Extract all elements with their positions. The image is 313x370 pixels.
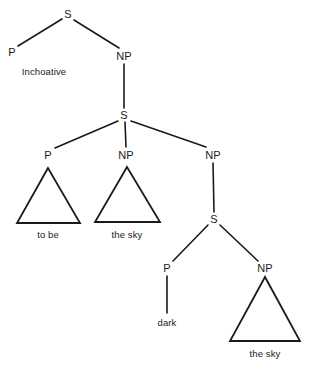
tree-branch-s-mid-to-np-mid [125,122,126,147]
tree-branch-s-low-to-p-low [173,225,208,261]
tree-lines-canvas [0,0,313,370]
tree-terminal-the-sky-low: the sky [250,348,281,359]
tree-terminal-dark: dark [158,317,177,328]
triangle-group [17,167,300,341]
constituent-triangle-the-sky-low [230,277,300,341]
tree-terminal-inchoative: Inchoative [22,66,66,77]
branch-group [18,19,258,313]
tree-node-p-mid: P [44,149,52,161]
syntax-tree-diagram: SPNPSPNPNPSPNP Inchoativeto bethe skydar… [0,0,313,370]
tree-node-p-top: P [8,46,16,58]
tree-node-s-root: S [64,8,72,20]
tree-node-s-low: S [210,213,218,225]
tree-terminal-the-sky-mid: the sky [112,229,143,240]
tree-node-p-low: P [163,262,171,274]
constituent-triangle-the-sky-mid [95,167,160,222]
tree-branch-np-right-to-s-low [213,163,214,212]
tree-node-np-mid: NP [118,149,134,161]
tree-node-s-mid: S [120,109,128,121]
constituent-triangle-to-be [17,168,80,223]
tree-branch-s-root-to-np-top [74,20,119,48]
tree-node-np-top: NP [116,50,132,62]
tree-node-np-right: NP [205,149,221,161]
tree-node-np-low: NP [257,262,273,274]
tree-terminal-to-be: to be [37,229,59,240]
tree-branch-s-mid-to-np-right [131,121,206,147]
tree-branch-s-low-to-np-low [220,225,258,261]
tree-branch-s-mid-to-p-mid [55,121,118,148]
tree-branch-s-root-to-p-top [18,19,62,46]
